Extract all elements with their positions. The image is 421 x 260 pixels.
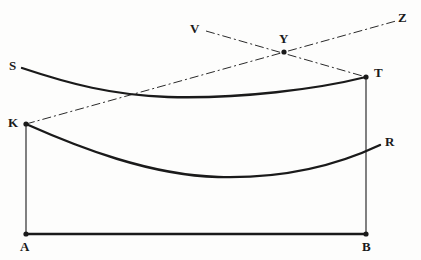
vertex-label-k: K [8,116,18,129]
geometric-figure: SKABTRVYZ [0,0,421,260]
vertex-label-y: Y [279,32,288,45]
vertex-dots [23,49,368,236]
vertex-dot-b [363,231,368,236]
vertex-dot-a [23,231,28,236]
vertex-label-a: A [20,240,29,253]
vertex-label-b: B [362,240,371,253]
line-kz [26,21,396,124]
curve-st [22,68,366,97]
vertex-dot-k [23,121,28,126]
curve-kr [26,124,380,177]
vertex-label-r: R [385,135,394,148]
vertex-label-v: V [190,22,199,35]
figure-canvas [0,0,421,260]
vertex-label-t: T [374,66,383,79]
vertex-label-s: S [9,59,16,72]
vertex-dot-y [281,49,286,54]
vertex-dot-t [363,74,368,79]
vertex-label-z: Z [398,11,407,24]
